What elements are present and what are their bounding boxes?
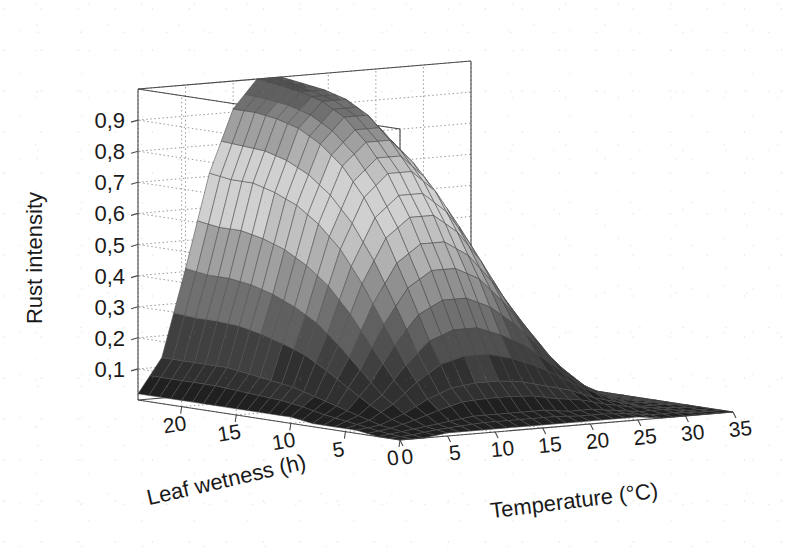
temperature-tick-label: 5 bbox=[448, 440, 462, 464]
leaf-wetness-tick bbox=[344, 432, 345, 439]
rust-intensity-tick-label: 0,5 bbox=[94, 233, 125, 258]
rust-intensity-tick-label: 0,3 bbox=[94, 295, 125, 320]
rust-intensity-tick bbox=[131, 182, 138, 184]
rust-intensity-tick-label: 0,8 bbox=[94, 139, 125, 164]
rust-intensity-tick bbox=[131, 338, 138, 340]
rust-intensity-tick-label: 0,1 bbox=[94, 357, 125, 382]
rust-intensity-tick bbox=[131, 307, 138, 309]
temperature-tick-label: 0 bbox=[400, 444, 414, 468]
rust-intensity-axis-title: Rust intensity bbox=[22, 192, 47, 324]
rust-intensity-tick bbox=[131, 276, 138, 278]
temperature-tick-label: 25 bbox=[632, 424, 658, 449]
rust-intensity-tick bbox=[131, 213, 138, 215]
rust-intensity-tick-label: 0,4 bbox=[94, 264, 125, 289]
leaf-wetness-tick-label: 5 bbox=[331, 437, 346, 462]
leaf-wetness-tick-label: 15 bbox=[216, 419, 243, 445]
temperature-tick-label: 15 bbox=[537, 432, 563, 457]
temperature-tick-label: 10 bbox=[490, 436, 516, 461]
temperature-tick-label: 30 bbox=[680, 420, 706, 445]
rust-intensity-tick bbox=[131, 245, 138, 247]
plot-canvas: 05101520253035051015200,10,20,30,40,50,6… bbox=[0, 0, 801, 555]
leaf-wetness-tick-label: 20 bbox=[161, 411, 188, 437]
temperature-axis-title: Temperature (°C) bbox=[489, 478, 660, 523]
rust-intensity-tick bbox=[131, 120, 138, 122]
rust-intensity-tick-label: 0,7 bbox=[94, 170, 125, 195]
leaf-wetness-axis-title: Leaf wetness (h) bbox=[144, 449, 308, 510]
leaf-wetness-tick-label: 10 bbox=[270, 428, 297, 454]
rust-intensity-tick bbox=[131, 151, 138, 153]
leaf-wetness-tick-label: 0 bbox=[385, 445, 400, 470]
surface-mesh bbox=[138, 77, 733, 440]
rust-intensity-tick-label: 0,6 bbox=[94, 201, 125, 226]
temperature-tick-label: 20 bbox=[585, 428, 611, 453]
rust-intensity-tick-label: 0,2 bbox=[94, 326, 125, 351]
temperature-tick-label: 35 bbox=[727, 416, 753, 441]
rust-intensity-tick-label: 0,9 bbox=[94, 108, 125, 133]
surface-plot-figure: 05101520253035051015200,10,20,30,40,50,6… bbox=[0, 0, 801, 555]
rust-intensity-tick bbox=[131, 369, 138, 371]
